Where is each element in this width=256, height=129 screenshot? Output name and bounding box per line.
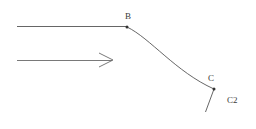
label-c: C [208,74,214,83]
label-c2: C2 [227,96,238,105]
point-c-marker [213,88,216,91]
arrow-head-upper [99,53,113,60]
curve-b-to-c [127,27,214,89]
right-arrow-icon [17,53,113,67]
label-b: B [125,12,131,21]
segment-c-to-c2 [206,89,215,112]
diagram-canvas: B C C2 [0,0,256,129]
point-b-marker [126,26,129,29]
arrow-head-lower [99,60,113,67]
